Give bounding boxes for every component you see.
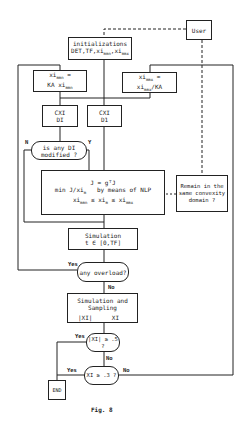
edge-label-y: Y — [88, 139, 91, 145]
edge-label-overload-yes: Yes — [68, 261, 78, 267]
user-box: User — [186, 20, 212, 40]
figure-caption: Fig. 8 — [91, 406, 113, 413]
xi-output: XI — [112, 314, 119, 321]
edge-label-abs-yes: Yes — [75, 333, 85, 339]
simulation-sampling-box: Simulation and Sampling |XI| XI — [67, 293, 138, 323]
init-title: initializations — [73, 40, 127, 47]
end-box: END — [48, 380, 66, 400]
simulation-box: Simulation t ∈ [0,TF] — [68, 228, 138, 250]
nlp-optimization-box: J = gᵀJ min J/xim by means of NLP ximmn … — [41, 170, 165, 215]
edge-label-abs-no: No — [106, 355, 113, 361]
edge-label-n: N — [25, 139, 28, 145]
initializations-box: initializations DET,TF,ximmn,ximmx — [68, 37, 132, 60]
abs-xi-output: |XI| — [78, 314, 92, 321]
overload-decision: any overload? — [77, 262, 129, 282]
remain-convexity-box: Remain in the same convexity domain ? — [176, 175, 228, 212]
cxi-di-right-box: CXI D1 — [87, 105, 122, 127]
edge-label-xi-no: No — [123, 367, 130, 373]
cxi-di-left-box: CXI DI — [42, 105, 78, 127]
di-modified-decision: is any DI modified ? — [31, 141, 87, 160]
init-params: DET,TF,ximmn,ximmx — [71, 47, 129, 57]
edge-label-overload-no: No — [108, 284, 115, 290]
xi-threshold-decision: XI ≥ .3 ? — [84, 366, 119, 385]
xi-mmn-update-box: ximmn = KA ximmn — [33, 70, 87, 92]
xi-mmx-update-box: ximmx = ximmx/KA — [122, 72, 177, 93]
edge-label-xi-yes: Yes — [67, 367, 77, 373]
abs-xi-threshold-decision: |XI| ≥ .5 ? — [86, 333, 120, 352]
user-label: User — [192, 27, 206, 34]
